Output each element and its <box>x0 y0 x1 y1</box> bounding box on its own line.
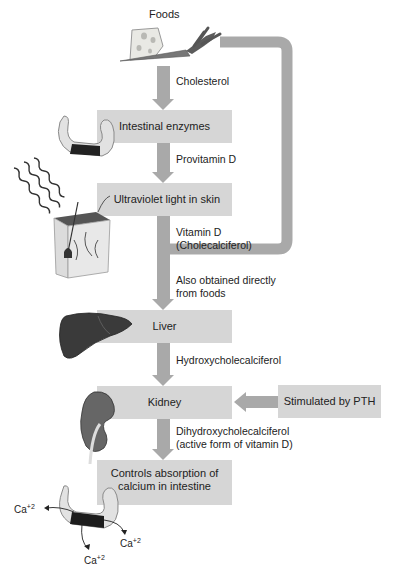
calcium-ion-right: Ca+2 <box>120 537 141 549</box>
calcium-ion-left: Ca+2 <box>14 503 35 515</box>
calcium-arrows <box>0 0 393 576</box>
calcium-ion-bottom: Ca+2 <box>84 554 105 566</box>
vitamin-d-diagram: Foods Cholesterol Intestinal enzymes Pro… <box>0 0 393 576</box>
